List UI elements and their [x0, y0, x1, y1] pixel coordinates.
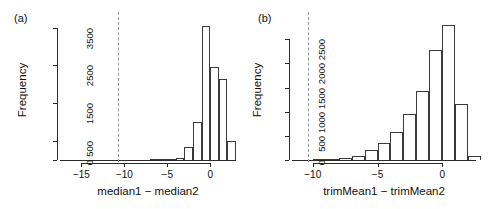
x-axis-tick-label: 0	[422, 169, 462, 180]
plot-area-b: 05001000150020002500−10−50	[244, 0, 488, 209]
y-axis-tick	[53, 28, 57, 29]
y-axis-tick-label: 2500	[84, 65, 96, 105]
x-axis-tick	[313, 163, 314, 167]
histogram-bar	[365, 150, 378, 160]
x-axis-tick-label: −5	[358, 169, 398, 180]
y-axis-tick	[285, 112, 289, 113]
x-axis-title-b: trimMean1 − trimMean2	[272, 185, 489, 197]
x-axis-title-a: median1 − median2	[40, 185, 256, 197]
histogram-bar	[416, 91, 429, 160]
histogram-bar	[455, 104, 468, 160]
reference-vline	[118, 12, 119, 162]
y-axis-tick-label: 3500	[84, 28, 96, 68]
y-axis-tick	[285, 136, 289, 137]
reference-vline	[308, 12, 309, 162]
histogram-bar	[403, 114, 416, 160]
histogram-bar	[378, 143, 391, 160]
y-axis-title-b: Frequency	[250, 20, 264, 160]
y-axis-tick-label: 1500	[84, 103, 96, 143]
y-axis-tick	[53, 141, 57, 142]
x-axis-tick	[210, 163, 211, 167]
x-axis-tick	[167, 163, 168, 167]
y-axis-line	[289, 39, 290, 160]
histogram-bar	[193, 122, 202, 160]
y-axis-line	[57, 28, 58, 160]
x-axis-tick	[442, 163, 443, 167]
panel-a: (a) 0500150025003500−15−10−50 Frequency …	[0, 0, 244, 209]
y-axis-tick-label: 2500	[316, 39, 328, 79]
histogram-bar	[210, 67, 219, 160]
x-axis-tick-label: −10	[293, 169, 333, 180]
histogram-bar	[390, 132, 403, 160]
y-axis-tick	[53, 160, 57, 161]
histogram-bar	[184, 147, 193, 160]
histogram-bar	[227, 141, 236, 160]
histogram-bar	[442, 25, 455, 160]
figure-histograms-panel: (a) 0500150025003500−15−10−50 Frequency …	[0, 0, 489, 209]
y-axis-tick	[285, 160, 289, 161]
y-axis-tick	[285, 63, 289, 64]
x-axis-tick-label: −15	[61, 169, 101, 180]
y-axis-tick	[53, 65, 57, 66]
x-axis-tick	[81, 163, 82, 167]
x-axis-tick-label: −5	[147, 169, 187, 180]
histogram-bar	[202, 26, 211, 160]
y-axis-tick	[285, 39, 289, 40]
plot-area-a: 0500150025003500−15−10−50	[0, 0, 244, 209]
histogram-bar	[429, 50, 442, 160]
panel-b: (b) 05001000150020002500−10−50 Frequency…	[244, 0, 488, 209]
x-axis-line	[81, 163, 210, 164]
y-axis-title-a: Frequency	[15, 20, 29, 160]
y-axis-tick	[53, 103, 57, 104]
x-axis-tick-label: 0	[190, 169, 230, 180]
x-axis-tick	[378, 163, 379, 167]
x-axis-tick-label: −10	[104, 169, 144, 180]
histogram-bar	[219, 79, 228, 160]
x-axis-tick	[124, 163, 125, 167]
y-axis-tick	[285, 88, 289, 89]
